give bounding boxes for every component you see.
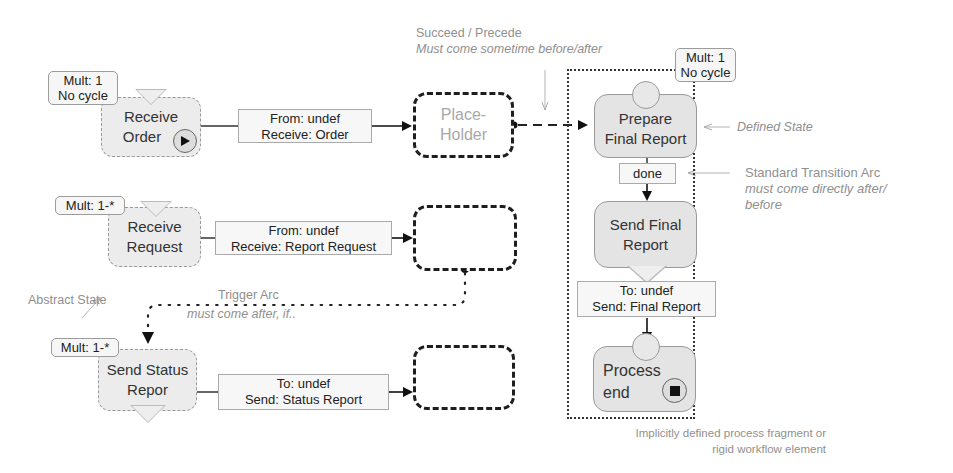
state-label-line1: Prepare (605, 109, 687, 129)
trigger-arc-annotation: Trigger Arc (218, 288, 279, 302)
annotation-subtitle: must come directly after/ (745, 181, 887, 197)
send-marker-fill (629, 266, 665, 282)
start-event-icon (632, 333, 660, 361)
play-icon (173, 129, 197, 153)
message-line2: Receive: Order (239, 127, 371, 143)
message-line1: From: undef (239, 111, 371, 127)
defined-state-annotation: Defined State (737, 119, 813, 135)
multiplicity-badge: Mult: 1 No cycle (48, 71, 118, 105)
fragment-annotation-line2: rigid workflow element (560, 441, 826, 457)
message-line1: To: undef (219, 376, 388, 392)
state-label: Prepare Final Report (605, 103, 687, 149)
state-label: Send Status Repor (107, 360, 189, 400)
state-label: Receive Order (123, 107, 179, 147)
send-marker-fill (132, 406, 164, 422)
state-label-line1: Receive (123, 107, 179, 127)
annotation-title: Succeed / Precede (416, 25, 602, 41)
start-event-icon (632, 81, 660, 109)
fragment-annotation: Implicitly defined process fragment or r… (560, 425, 826, 457)
fragment-annotation-line1: Implicitly defined process fragment or (560, 425, 826, 441)
placeholder-3[interactable] (413, 345, 515, 410)
message-line1: To: undef (578, 283, 715, 299)
annotation-subtitle: Must come sometime before/after (416, 41, 602, 57)
annotation-title: Standard Transition Arc (745, 165, 887, 181)
state-label: Send Final Report (610, 215, 682, 255)
trigger-arc-subtitle: must come after, if.. (187, 307, 296, 321)
mult-line1: Mult: 1 (679, 50, 732, 65)
state-label-line2: Repor (107, 380, 189, 400)
mult-line1: Mult: 1 (52, 73, 114, 88)
mult-line2: No cycle (679, 65, 732, 80)
state-label-line1: Process (603, 360, 661, 382)
state-label-line2: end (603, 382, 661, 404)
transition-label-text: done (620, 165, 675, 183)
state-receive-order[interactable]: Receive Order (101, 97, 201, 157)
state-label: Process end (594, 354, 661, 404)
state-label: Receive Request (127, 217, 183, 257)
message-receive-order[interactable]: From: undef Receive: Order (238, 109, 372, 143)
multiplicity-badge: Mult: 1-* (55, 196, 125, 215)
receive-marker-fill (142, 202, 170, 216)
multiplicity-badge: Mult: 1-* (51, 338, 119, 357)
transition-label-done[interactable]: done (619, 163, 676, 184)
receive-marker-fill (137, 90, 165, 104)
fragment-multiplicity-badge: Mult: 1 No cycle (675, 48, 736, 82)
trigger-arc (148, 273, 465, 335)
mult-line1: Mult: 1-* (55, 340, 115, 355)
state-label-line2: Request (127, 237, 183, 257)
state-send-final-report[interactable]: Send Final Report (594, 201, 697, 268)
placeholder-line2: Holder (440, 125, 487, 145)
abstract-state-annotation: Abstract State (28, 292, 107, 308)
message-receive-report-request[interactable]: From: undef Receive: Report Request (215, 221, 392, 255)
message-line2: Receive: Report Request (216, 239, 391, 255)
annotation-subtitle-2: before (745, 197, 887, 213)
message-send-status-report[interactable]: To: undef Send: Status Report (218, 374, 389, 410)
state-label-line2: Report (610, 235, 682, 255)
state-label-line1: Send Final (610, 215, 682, 235)
message-send-final-report[interactable]: To: undef Send: Final Report (577, 281, 716, 317)
state-send-status-report[interactable]: Send Status Repor (98, 349, 197, 411)
state-label-line1: Receive (127, 217, 183, 237)
state-label-line2: Final Report (605, 129, 687, 149)
succeed-precede-annotation: Succeed / Precede Must come sometime bef… (416, 25, 602, 57)
state-label-line2: Order (123, 127, 161, 147)
message-line2: Send: Status Report (219, 392, 388, 408)
mult-line2: No cycle (52, 88, 114, 103)
stop-square (670, 386, 680, 396)
state-label-line1: Send Status (107, 360, 189, 380)
placeholder-2[interactable] (413, 205, 517, 271)
message-line2: Send: Final Report (578, 299, 715, 315)
placeholder-1[interactable]: Place- Holder (413, 92, 514, 158)
mult-line1: Mult: 1-* (59, 198, 121, 213)
placeholder-label: Place- Holder (440, 105, 487, 145)
standard-transition-annotation: Standard Transition Arc must come direct… (745, 165, 887, 213)
stop-icon (662, 378, 687, 403)
annotation-title: Trigger Arc (218, 288, 279, 302)
message-line1: From: undef (216, 223, 391, 239)
placeholder-line1: Place- (440, 105, 487, 125)
